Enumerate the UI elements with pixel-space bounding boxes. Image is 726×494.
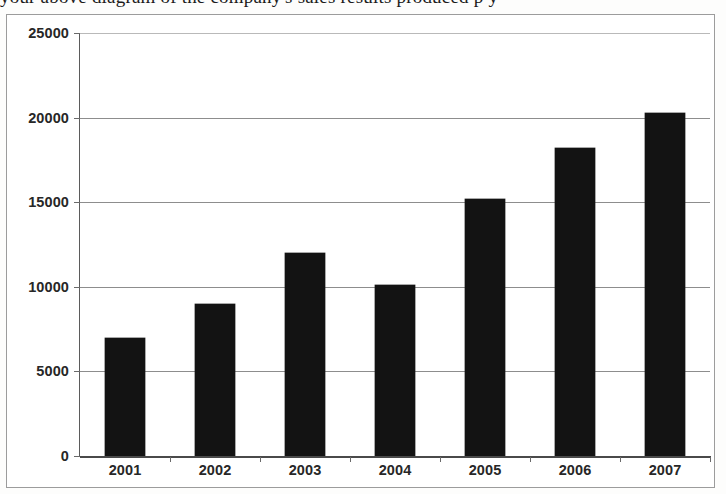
y-axis-tick-label: 10000 — [28, 279, 69, 295]
bar-2007 — [645, 113, 685, 456]
category-axis-line — [80, 456, 711, 458]
value-axis-tick — [74, 371, 80, 372]
value-axis-tick — [74, 33, 80, 34]
value-axis-tick — [74, 287, 80, 288]
category-axis-tick — [710, 457, 711, 462]
x-axis-tick-label-2007: 2007 — [620, 462, 710, 478]
x-axis-tick-label-2003: 2003 — [260, 462, 350, 478]
bar-2002 — [195, 304, 235, 456]
category-axis-tick — [530, 457, 531, 462]
value-axis-tick — [74, 456, 80, 457]
cut-off-document-text: your above diagram of the company's sale… — [0, 0, 726, 8]
x-axis-tick-label-2004: 2004 — [350, 462, 440, 478]
bar-2003 — [285, 253, 325, 456]
y-axis-tick-label: 5000 — [36, 363, 69, 379]
y-axis-tick-label: 25000 — [28, 25, 69, 41]
category-axis-tick — [260, 457, 261, 462]
category-axis-tick — [440, 457, 441, 462]
value-axis-line — [79, 33, 80, 457]
category-axis-tick — [170, 457, 171, 462]
value-axis-tick — [74, 202, 80, 203]
y-axis-tick-label: 20000 — [28, 110, 69, 126]
x-axis-tick-label-2002: 2002 — [170, 462, 260, 478]
x-axis-tick-label-2005: 2005 — [440, 462, 530, 478]
x-axis-tick-label-2001: 2001 — [80, 462, 170, 478]
y-axis-labels: 0500010000150002000025000 — [0, 0, 69, 494]
y-axis-tick-label: 0 — [61, 448, 69, 464]
x-axis-tick-label-2006: 2006 — [530, 462, 620, 478]
bar-2004 — [375, 285, 415, 456]
bars-layer — [80, 33, 710, 456]
y-axis-tick-label: 15000 — [28, 194, 69, 210]
bar-2006 — [555, 148, 595, 456]
category-axis-tick — [620, 457, 621, 462]
bar-2001 — [105, 338, 145, 456]
category-axis-tick — [350, 457, 351, 462]
bar-2005 — [465, 199, 505, 456]
value-axis-tick — [74, 118, 80, 119]
scanned-page-background: your above diagram of the company's sale… — [0, 0, 726, 494]
